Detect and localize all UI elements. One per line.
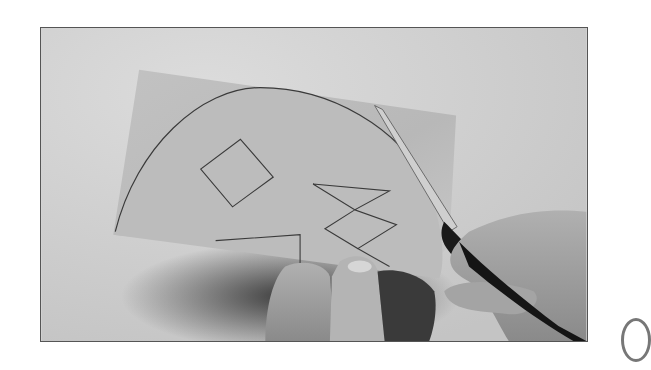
photo-frame bbox=[40, 27, 588, 342]
scissors-cutting-paper-photo bbox=[41, 28, 587, 341]
thumbnail bbox=[348, 261, 372, 273]
page-edge-marker bbox=[621, 318, 651, 362]
